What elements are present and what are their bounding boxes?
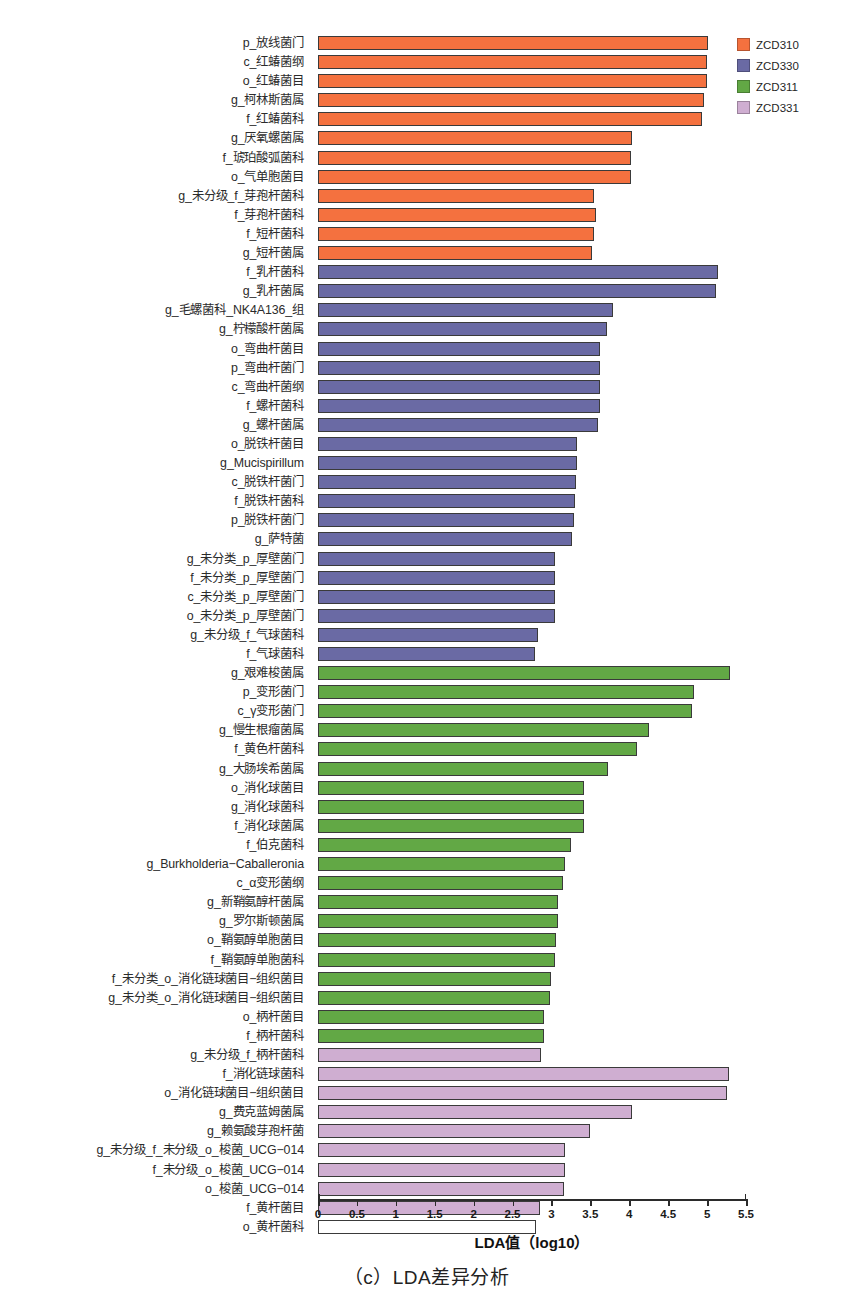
bar [318, 685, 694, 699]
legend-swatch [737, 59, 750, 72]
category-label: g_柠檬酸杆菌属 [219, 320, 304, 339]
category-label: f_消化球菌属 [234, 817, 304, 836]
label-row: g_大肠埃希菌属 [0, 760, 312, 779]
bar-row [318, 225, 746, 244]
bar-row [318, 320, 746, 339]
bar [318, 1067, 729, 1081]
label-row: g_柯林斯菌属 [0, 91, 312, 110]
category-label: c_红蝽菌纲 [244, 53, 305, 72]
category-label: g_厌氧螺菌属 [231, 129, 304, 148]
category-label: f_未分类_o_消化链球菌目−组织菌目 [112, 970, 304, 989]
category-label: o_柄杆菌目 [243, 1008, 304, 1027]
bar-row [318, 473, 746, 492]
label-row: g_费克蓝姆菌属 [0, 1103, 312, 1122]
bar-row [318, 1065, 746, 1084]
category-label-column: p_放线菌门c_红蝽菌纲o_红蝽菌目g_柯林斯菌属f_红蝽菌科g_厌氧螺菌属f_… [0, 34, 312, 1197]
label-row: g_短杆菌属 [0, 244, 312, 263]
x-axis-tick [746, 1199, 748, 1206]
bar [318, 628, 538, 642]
category-label: c_脱铁杆菌门 [232, 473, 304, 492]
bar-row [318, 798, 746, 817]
category-label: f_红蝽菌科 [246, 110, 304, 129]
bar [318, 819, 584, 833]
category-label: g_消化球菌科 [231, 798, 304, 817]
category-label: g_Mucispirillum [220, 454, 304, 473]
category-label: f_芽孢杆菌科 [234, 206, 304, 225]
bar [318, 1163, 565, 1177]
bar [318, 437, 577, 451]
label-row: o_柄杆菌目 [0, 1008, 312, 1027]
category-label: c_α变形菌纲 [236, 874, 304, 893]
label-row: c_γ变形菌门 [0, 702, 312, 721]
category-label: f_消化链球菌科 [222, 1065, 304, 1084]
category-label: g_新鞘氨醇杆菌属 [207, 893, 304, 912]
bar-row [318, 378, 746, 397]
bar-row [318, 282, 746, 301]
label-row: g_未分级_f_柄杆菌科 [0, 1046, 312, 1065]
category-label: o_红蝽菌目 [243, 72, 304, 91]
bar [318, 590, 555, 604]
label-row: p_弯曲杆菌门 [0, 359, 312, 378]
category-label: c_未分类_p_厚壁菌门 [187, 588, 304, 607]
category-label: g_费克蓝姆菌属 [219, 1103, 304, 1122]
bar-row [318, 989, 746, 1008]
category-label: g_螺杆菌属 [243, 416, 304, 435]
label-row: f_脱铁杆菌科 [0, 492, 312, 511]
label-row: f_未分类_o_消化链球菌目−组织菌目 [0, 970, 312, 989]
bar-row [318, 53, 746, 72]
bar [318, 361, 600, 375]
bar-row [318, 912, 746, 931]
x-axis-tick-label: 1.5 [427, 1208, 443, 1220]
label-row: g_Mucispirillum [0, 454, 312, 473]
bar [318, 227, 594, 241]
bar-row [318, 511, 746, 530]
bar [318, 933, 556, 947]
bar-row [318, 1103, 746, 1122]
bar [318, 1086, 727, 1100]
bar [318, 723, 649, 737]
bar [318, 284, 716, 298]
bar-row [318, 492, 746, 511]
x-axis-endcap [318, 1194, 320, 1199]
category-label: p_变形菌门 [243, 683, 304, 702]
legend-label: ZCD331 [756, 102, 799, 114]
bar-row [318, 683, 746, 702]
bar [318, 552, 555, 566]
bar-row [318, 149, 746, 168]
bar-row [318, 1161, 746, 1180]
bar [318, 208, 596, 222]
category-label: g_未分级_f_柄杆菌科 [190, 1046, 304, 1065]
x-axis-tick [590, 1199, 592, 1206]
bar [318, 571, 555, 585]
bar [318, 532, 572, 546]
bar-row [318, 874, 746, 893]
bar-row [318, 168, 746, 187]
bar-row [318, 855, 746, 874]
bar [318, 494, 575, 508]
bar-row [318, 550, 746, 569]
label-row: g_新鞘氨醇杆菌属 [0, 893, 312, 912]
label-row: g_萨特菌 [0, 530, 312, 549]
label-row: f_未分类_p_厚壁菌门 [0, 569, 312, 588]
bar-row [318, 187, 746, 206]
label-row: g_未分级_f_未分级_o_梭菌_UCG−014 [0, 1141, 312, 1160]
category-label: f_鞘氨醇单胞菌科 [211, 951, 304, 970]
bar [318, 838, 571, 852]
category-label: o_梭菌_UCG−014 [205, 1180, 304, 1199]
bar-row [318, 836, 746, 855]
bar-row [318, 760, 746, 779]
legend-item: ZCD331 [737, 97, 847, 118]
bar [318, 1048, 541, 1062]
category-label: g_短杆菌属 [243, 244, 304, 263]
category-label: f_黄杆菌目 [246, 1199, 304, 1218]
x-axis-tick [435, 1199, 437, 1206]
label-row: g_柠檬酸杆菌属 [0, 320, 312, 339]
label-row: g_赖氨酸芽孢杆菌 [0, 1122, 312, 1141]
bar [318, 55, 707, 69]
x-axis-tick-label: 1 [393, 1208, 399, 1220]
bar-row [318, 893, 746, 912]
label-row: g_未分级_f_气球菌科 [0, 626, 312, 645]
bar [318, 609, 555, 623]
bar-row [318, 340, 746, 359]
bar [318, 418, 598, 432]
